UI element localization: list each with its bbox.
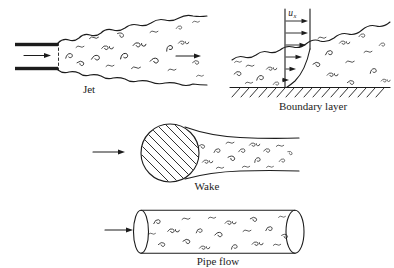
- jet-exit-flow-arrow: [176, 54, 201, 59]
- pipe-flow-panel: Pipe flow: [105, 210, 304, 267]
- pipe-flow-label: Pipe flow: [197, 255, 240, 267]
- turbulent-flows-figure: Jet u x: [0, 0, 394, 268]
- pipe-flow-arrow: [105, 228, 133, 233]
- velocity-annotation: u x: [288, 8, 296, 19]
- boundary-layer-edge: [232, 22, 390, 60]
- figure-canvas: Jet u x: [0, 0, 394, 268]
- boundary-layer-panel: u x Boundary layer: [230, 8, 390, 113]
- wake-flow-arrow: [93, 150, 125, 155]
- wake-label: Wake: [195, 180, 220, 192]
- jet-nozzle: [15, 43, 59, 70]
- bluff-body-cylinder: [108, 121, 244, 185]
- wake-panel: Wake: [93, 121, 299, 192]
- wake-boundaries: [185, 127, 299, 179]
- velocity-subscript: x: [293, 12, 297, 19]
- velocity-profile-arrows: [283, 19, 309, 82]
- jet-label: Jet: [83, 83, 95, 95]
- cylinder-hatching: [108, 121, 244, 185]
- pipe-eddies: [149, 216, 289, 250]
- boundary-layer-eddies: [234, 34, 390, 85]
- jet-eddies: [65, 21, 204, 76]
- jet-panel: Jet: [15, 15, 207, 95]
- pipe-body: [134, 210, 305, 253]
- velocity-symbol: u: [288, 8, 293, 18]
- wake-eddies: [198, 142, 292, 168]
- wall-with-hatching: [230, 88, 390, 98]
- jet-inlet-flow-arrow: [24, 53, 51, 58]
- jet-boundaries: [58, 15, 207, 85]
- boundary-layer-label: Boundary layer: [279, 100, 347, 112]
